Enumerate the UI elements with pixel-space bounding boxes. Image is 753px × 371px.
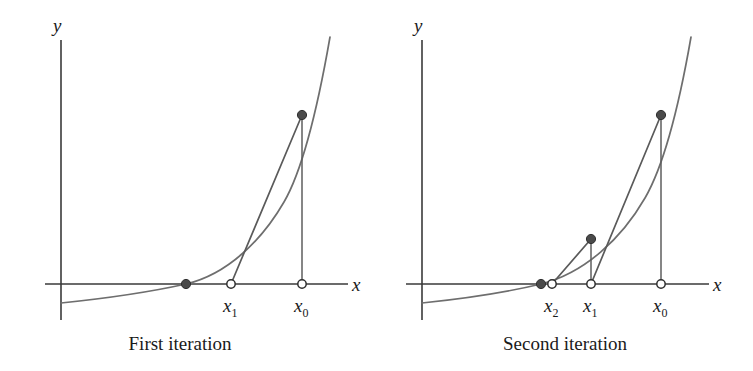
fx0-point-panel1 [297,110,306,119]
panel-first-iteration: y x x1 x0 [45,15,361,320]
caption-first-iteration: First iteration [0,333,360,355]
secant-line-panel1 [231,115,302,284]
secant-line-1-panel2 [552,239,591,284]
figure-canvas: y x x1 x0 y x [0,0,753,371]
caption-second-iteration: Second iteration [400,333,730,355]
x-axis-label-panel1: x [351,274,361,295]
root-point-panel1 [181,279,190,288]
secant-method-figure: y x x1 x0 y x [0,0,753,371]
x-axis-label-panel2: x [712,274,722,295]
tick-label-x0-panel1: x0 [293,295,308,320]
root-point-panel2 [536,279,545,288]
y-axis-label-panel1: y [51,15,62,36]
secant-line-0-panel2 [591,115,661,284]
x1-marker-panel1 [227,280,235,288]
x0-marker-panel2 [657,280,665,288]
fx1-point-panel2 [586,234,595,243]
function-curve-panel2 [422,37,691,303]
x0-marker-panel1 [298,280,306,288]
tick-label-x2-panel2: x2 [543,295,558,320]
x2-marker-panel2 [548,280,556,288]
tick-label-x1-panel2: x1 [582,295,597,320]
y-axis-label-panel2: y [412,15,423,36]
fx0-point-panel2 [656,110,665,119]
tick-label-x1-panel1: x1 [222,295,237,320]
x1-marker-panel2 [587,280,595,288]
function-curve-panel1 [61,37,330,303]
panel-second-iteration: y x x2 x1 x0 [406,15,722,320]
tick-label-x0-panel2: x0 [652,295,667,320]
